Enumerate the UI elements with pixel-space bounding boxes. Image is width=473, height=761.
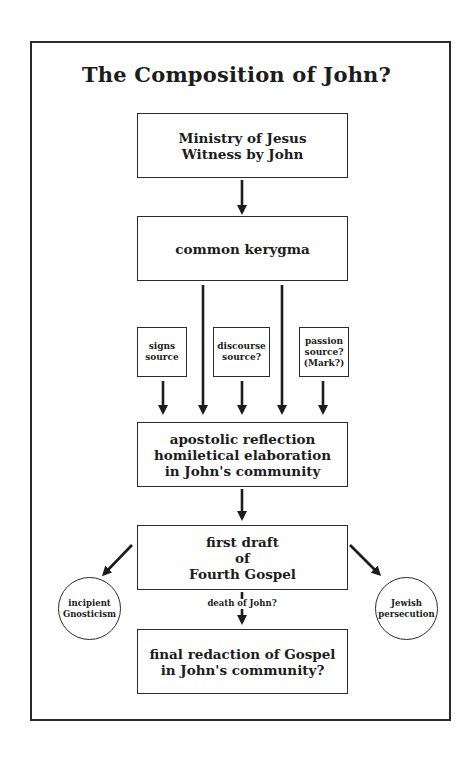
node-kerygma-label: common kerygma — [175, 241, 310, 257]
arrow-draft-to-persecution — [350, 545, 379, 574]
node-jewish-persecution-label: Jewish persecution — [378, 598, 434, 620]
node-ministry: Ministry of Jesus Witness by John — [137, 113, 348, 178]
node-ministry-label: Ministry of Jesus Witness by John — [178, 130, 306, 162]
node-gnosticism: incipient Gnosticism — [58, 577, 121, 640]
node-final-redaction-label: final redaction of Gospel in John's comm… — [149, 646, 335, 678]
node-final-redaction: final redaction of Gospel in John's comm… — [137, 629, 348, 694]
arrow-draft-to-gnosticism — [104, 545, 132, 574]
node-gnosticism-label: incipient Gnosticism — [63, 598, 116, 620]
node-signs-source-label: signs source — [145, 341, 179, 363]
node-passion-source: passion source? (Mark?) — [299, 327, 349, 377]
node-signs-source: signs source — [137, 327, 187, 377]
node-first-draft-label: first draft of Fourth Gospel — [189, 534, 296, 582]
edge-label-death-of-john: death of John? — [192, 598, 292, 608]
node-apostolic-reflection: apostolic reflection homiletical elabora… — [137, 422, 348, 487]
node-passion-source-label: passion source? (Mark?) — [304, 336, 345, 369]
node-jewish-persecution: Jewish persecution — [375, 577, 438, 640]
node-apostolic-reflection-label: apostolic reflection homiletical elabora… — [154, 431, 331, 479]
node-discourse-source: discourse source? — [213, 327, 270, 377]
node-first-draft: first draft of Fourth Gospel — [137, 525, 348, 590]
node-discourse-source-label: discourse source? — [217, 341, 265, 363]
node-kerygma: common kerygma — [137, 216, 348, 281]
